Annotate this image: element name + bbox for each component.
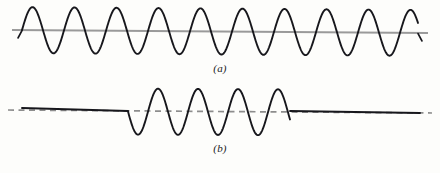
panel-a-axis-line [12, 30, 428, 33]
panel-a-right-stub [418, 34, 422, 42]
panel-b: (b) [0, 80, 440, 173]
panel-a: (a) [0, 0, 440, 80]
panel-b-label: (b) [0, 142, 440, 154]
panel-a-left-stub [18, 31, 22, 39]
panel-a-plot [0, 0, 440, 62]
panel-a-label: (a) [0, 62, 440, 74]
panel-b-plot [0, 80, 440, 142]
wave-figure: (a) (b) [0, 0, 440, 173]
panel-b-flat-right-segment [290, 111, 420, 113]
